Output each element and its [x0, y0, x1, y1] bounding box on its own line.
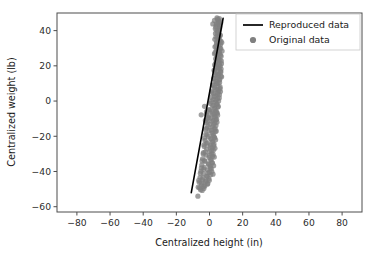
scatter-point — [200, 188, 205, 193]
scatter-point — [218, 89, 223, 94]
scatter-point — [202, 135, 207, 140]
scatter-point — [219, 40, 224, 45]
scatter-plot-canvas: −80−60−40−20020406080 40200−20−40−60 Cen… — [0, 0, 380, 258]
scatter-point — [198, 171, 203, 176]
legend-label-original: Original data — [269, 34, 330, 45]
x-tick-label: 40 — [270, 217, 282, 228]
scatter-point — [199, 165, 204, 170]
y-tick-label: −20 — [32, 131, 52, 142]
scatter-point — [199, 158, 204, 163]
scatter-point — [195, 194, 200, 199]
legend-marker-swatch — [250, 37, 256, 43]
x-tick-label: −40 — [134, 217, 154, 228]
scatter-point — [201, 151, 206, 156]
x-tick-label: −80 — [67, 217, 87, 228]
scatter-point — [220, 48, 225, 53]
y-tick-label: 20 — [39, 60, 51, 71]
scatter-point — [219, 74, 224, 79]
x-tick-label: −20 — [167, 217, 187, 228]
scatter-point — [210, 172, 215, 177]
scatter-point — [201, 142, 206, 147]
x-tick-label: 0 — [207, 217, 213, 228]
legend-label-reproduced: Reproduced data — [269, 19, 349, 30]
y-tick-label: −40 — [32, 166, 52, 177]
y-tick-label: −60 — [32, 201, 52, 212]
x-axis-label: Centralized height (in) — [155, 237, 263, 248]
chart-figure: −80−60−40−20020406080 40200−20−40−60 Cen… — [0, 0, 380, 258]
y-axis-label: Centralized weight (lb) — [6, 57, 17, 166]
x-tick-label: 80 — [336, 217, 348, 228]
x-tick-label: −60 — [100, 217, 120, 228]
y-tick-label: 40 — [39, 25, 51, 36]
scatter-point — [219, 66, 224, 71]
legend: Reproduced data Original data — [236, 14, 360, 50]
scatter-point — [199, 112, 204, 117]
x-tick-label: 60 — [303, 217, 315, 228]
y-tick-label: 0 — [45, 95, 51, 106]
x-tick-label: 20 — [237, 217, 249, 228]
scatter-point — [196, 178, 201, 183]
